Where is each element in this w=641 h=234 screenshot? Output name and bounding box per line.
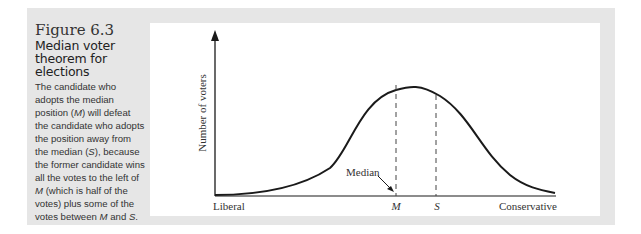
y-axis-arrow-icon — [211, 30, 219, 41]
marker-m: M — [390, 200, 401, 212]
arrowhead-icon — [387, 186, 394, 192]
voter-distribution-curve — [215, 87, 555, 195]
median-annotation: Median — [346, 166, 380, 178]
median-voter-diagram: Number of voters Liberal Conservative Me… — [0, 0, 641, 234]
y-axis-label: Number of voters — [196, 74, 208, 152]
marker-s: S — [434, 200, 440, 212]
x-axis-right-label: Conservative — [499, 200, 557, 212]
x-axis-left-label: Liberal — [213, 200, 245, 212]
